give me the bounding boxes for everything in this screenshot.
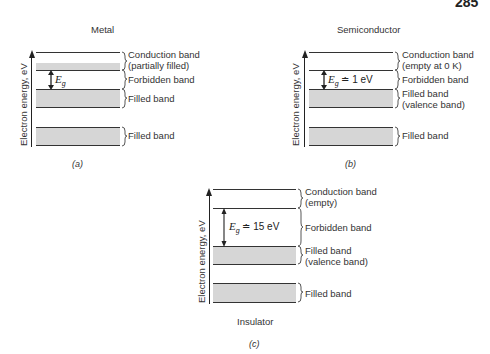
conduction-band-top bbox=[309, 52, 393, 53]
energy-gap-label: Eg ≐ 1 eV bbox=[328, 73, 373, 87]
lower-filled-band-top bbox=[309, 127, 393, 128]
lower-filled-band-bottom bbox=[36, 145, 120, 146]
forbidden-band-label: Forbidden band bbox=[128, 74, 195, 85]
filled-band-bottom bbox=[36, 107, 120, 108]
panel-title: Insulator bbox=[237, 316, 273, 327]
energy-gap-label: Eg ≐ 15 eV bbox=[229, 220, 279, 234]
y-axis-label: Electron energy, eV bbox=[196, 220, 207, 303]
conduction-band-label: Conduction band bbox=[128, 49, 200, 60]
valence-band-bottom bbox=[309, 107, 393, 108]
energy-axis bbox=[31, 56, 32, 147]
lower-filled-band bbox=[309, 127, 393, 146]
valence-band-note: (valence band) bbox=[402, 99, 465, 110]
panel-caption: (b) bbox=[345, 159, 356, 169]
conduction-band-label: Conduction band bbox=[305, 186, 377, 197]
page-number: 285 bbox=[455, 0, 478, 10]
lower-filled-band-label: Filled band bbox=[128, 130, 174, 141]
panel-title: Semiconductor bbox=[337, 24, 400, 35]
forbidden-band-label: Forbidden band bbox=[402, 74, 469, 85]
panel-caption: (a) bbox=[72, 159, 83, 169]
lower-filled-band bbox=[213, 283, 296, 302]
conduction-band-label: Conduction band bbox=[402, 49, 474, 60]
conduction-band-top bbox=[213, 189, 296, 190]
panel-title: Metal bbox=[91, 24, 114, 35]
valence-band-label: Filled band bbox=[402, 88, 448, 99]
lower-filled-band-bottom bbox=[213, 302, 296, 303]
lower-filled-band-top bbox=[36, 127, 120, 128]
panel-caption: (c) bbox=[249, 339, 260, 349]
forbidden-band-label: Forbidden band bbox=[305, 222, 372, 233]
y-axis-label: Electron energy, eV bbox=[18, 63, 29, 146]
lower-filled-band bbox=[36, 127, 120, 146]
energy-axis bbox=[304, 56, 305, 147]
valence-band-note: (valence band) bbox=[305, 256, 368, 267]
filled-band bbox=[36, 89, 120, 108]
gap-double-arrow-icon bbox=[219, 207, 229, 248]
conduction-band-note: (empty at 0 K) bbox=[402, 60, 462, 71]
brace-icon bbox=[297, 187, 305, 307]
lower-filled-band-label: Filled band bbox=[305, 288, 351, 299]
filled-band-label: Filled band bbox=[128, 93, 174, 104]
valence-band bbox=[309, 89, 393, 108]
y-axis-label: Electron energy, eV bbox=[290, 63, 301, 146]
lower-filled-band-bottom bbox=[309, 145, 393, 146]
brace-icon bbox=[394, 50, 402, 150]
energy-gap-label: Eg bbox=[55, 73, 66, 87]
energy-axis bbox=[209, 194, 210, 304]
arrow-up-icon bbox=[206, 188, 212, 196]
lower-filled-band-label: Filled band bbox=[402, 130, 448, 141]
arrow-up-icon bbox=[302, 50, 308, 58]
conduction-band-note: (partially filled) bbox=[128, 60, 189, 71]
lower-filled-band-top bbox=[213, 283, 296, 284]
valence-band-label: Filled band bbox=[305, 245, 351, 256]
conduction-band-note: (empty) bbox=[305, 197, 337, 208]
conduction-band-top bbox=[36, 52, 120, 53]
arrow-up-icon bbox=[29, 50, 35, 58]
valence-band bbox=[213, 246, 296, 264]
valence-band-bottom bbox=[213, 264, 296, 265]
